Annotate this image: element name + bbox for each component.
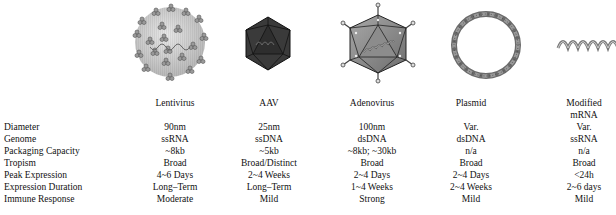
cell-duration-aav: Long–Term bbox=[214, 181, 324, 193]
cell-duration-mrna: 2~6 days bbox=[529, 181, 616, 193]
cell-duration-plasmid: 2~4 Weeks bbox=[416, 181, 526, 193]
row-label-genome: Genome bbox=[4, 133, 36, 145]
cell-duration-adenovirus: 1~4 Weeks bbox=[317, 181, 427, 193]
cell-genome-adenovirus: dsDNA bbox=[317, 133, 427, 145]
column-header-modified-mrna-line2: mRNA bbox=[529, 109, 616, 121]
cell-tropism-plasmid: Broad bbox=[416, 157, 526, 169]
cell-diameter-aav: 25nm bbox=[214, 121, 324, 133]
cell-diameter-adenovirus: 100nm bbox=[317, 121, 427, 133]
cell-immune-aav: Mild bbox=[214, 193, 324, 205]
cell-peak-adenovirus: 2~4 Days bbox=[317, 169, 427, 181]
cell-packaging-aav: ~5kb bbox=[214, 145, 324, 157]
mrna-strand-icon bbox=[558, 42, 616, 49]
aav-icosahedron-icon bbox=[246, 17, 290, 70]
cell-tropism-adenovirus: Broad bbox=[317, 157, 427, 169]
cell-packaging-plasmid: n/a bbox=[416, 145, 526, 157]
cell-genome-mrna: ssRNA bbox=[529, 133, 616, 145]
lentivirus-particle-icon bbox=[133, 4, 208, 81]
cell-tropism-mrna: Broad bbox=[529, 157, 616, 169]
cell-packaging-mrna: n/a bbox=[529, 145, 616, 157]
cell-genome-plasmid: dsDNA bbox=[416, 133, 526, 145]
cell-tropism-aav: Broad/Distinct bbox=[214, 157, 324, 169]
cell-peak-aav: 2~4 Weeks bbox=[214, 169, 324, 181]
column-header-aav: AAV bbox=[214, 97, 324, 109]
plasmid-ring-icon bbox=[454, 14, 518, 76]
cell-packaging-adenovirus: ~8kb; ~30kb bbox=[317, 145, 427, 157]
cell-peak-plasmid: 2~4 Days bbox=[416, 169, 526, 181]
column-header-plasmid: Plasmid bbox=[416, 97, 526, 109]
row-label-peak-expression: Peak Expression bbox=[4, 169, 67, 181]
row-label-packaging-capacity: Packaging Capacity bbox=[4, 145, 80, 157]
cell-immune-plasmid: Mild bbox=[416, 193, 526, 205]
row-label-tropism: Tropism bbox=[4, 157, 36, 169]
column-header-adenovirus: Adenovirus bbox=[317, 97, 427, 109]
cell-genome-aav: ssDNA bbox=[214, 133, 324, 145]
row-label-diameter: Diameter bbox=[4, 121, 39, 133]
cell-immune-adenovirus: Strong bbox=[317, 193, 427, 205]
column-header-modified-mrna-line1: Modified bbox=[529, 97, 616, 109]
vector-illustrations bbox=[0, 0, 616, 95]
cell-diameter-mrna: Var. bbox=[529, 121, 616, 133]
adenovirus-capsid-icon bbox=[341, 3, 415, 83]
column-header-modified-mrna: Modified mRNA bbox=[529, 97, 616, 121]
row-label-expression-duration: Expression Duration bbox=[4, 181, 82, 193]
row-label-immune-response: Immune Response bbox=[4, 193, 74, 205]
cell-peak-mrna: <24h bbox=[529, 169, 616, 181]
cell-diameter-plasmid: Var. bbox=[416, 121, 526, 133]
cell-immune-mrna: Mild bbox=[529, 193, 616, 205]
